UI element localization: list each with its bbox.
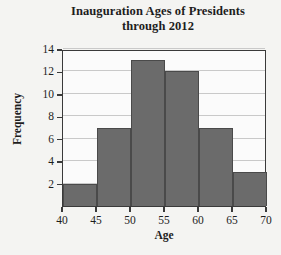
x-tick-mark: [61, 207, 62, 212]
x-tick-label: 70: [251, 214, 281, 226]
x-tick-mark: [197, 207, 198, 212]
x-axis: 40455055606570: [0, 0, 281, 255]
x-tick-mark: [129, 207, 130, 212]
x-tick-label: 45: [81, 214, 111, 226]
x-tick-label: 55: [149, 214, 179, 226]
x-tick-mark: [231, 207, 232, 212]
x-tick-label: 65: [217, 214, 247, 226]
x-tick-mark: [163, 207, 164, 212]
histogram-figure: Inauguration Ages of Presidents through …: [0, 0, 281, 255]
x-tick-mark: [95, 207, 96, 212]
x-tick-label: 50: [115, 214, 145, 226]
x-tick-label: 40: [47, 214, 77, 226]
x-tick-label: 60: [183, 214, 213, 226]
x-tick-mark: [265, 207, 266, 212]
x-axis-label: Age: [62, 229, 266, 241]
